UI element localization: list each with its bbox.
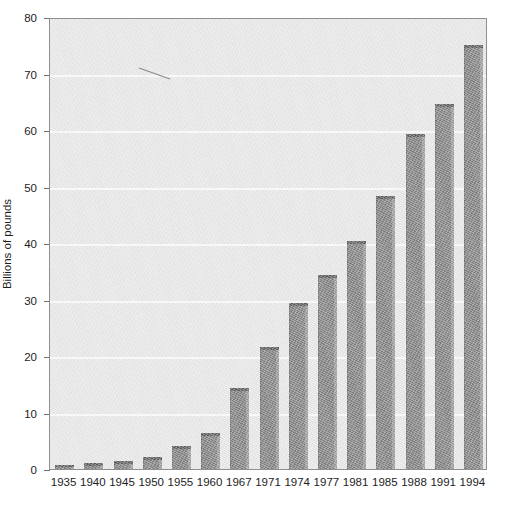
x-axis-tick-label: 1991 [430, 476, 456, 488]
bar-top-edge [435, 104, 454, 107]
bar-left-edge [172, 446, 173, 469]
bar-top-edge [318, 275, 337, 278]
y-axis-tick-label: 20 [0, 351, 37, 363]
bar [435, 104, 454, 469]
y-axis-tick-mark [44, 470, 50, 471]
bar [260, 347, 279, 469]
bar-left-edge [201, 433, 202, 469]
x-axis-tick-label: 1974 [284, 476, 310, 488]
plot-area [49, 18, 487, 470]
bar [406, 134, 425, 469]
y-axis-tick-label: 40 [0, 238, 37, 250]
bar-right-edge [217, 433, 220, 469]
bar [230, 388, 249, 469]
x-axis-tick-label: 1971 [255, 476, 281, 488]
bar [172, 446, 191, 469]
bar-left-edge [435, 104, 436, 469]
bar [55, 465, 74, 469]
x-axis-tick-label: 1955 [168, 476, 194, 488]
bar [143, 457, 162, 469]
x-axis-tick-label: 1967 [226, 476, 252, 488]
x-axis-tick-label: 1988 [401, 476, 427, 488]
bar-top-edge [260, 347, 279, 350]
bar-left-edge [260, 347, 261, 469]
bar-right-edge [480, 45, 483, 469]
bar-right-edge [363, 241, 366, 469]
bar-left-edge [289, 303, 290, 469]
bar [464, 45, 483, 469]
bar-top-edge [230, 388, 249, 391]
bar-left-edge [347, 241, 348, 469]
gridline [50, 75, 486, 77]
y-axis-tick-label: 0 [0, 464, 37, 476]
bar-left-edge [406, 134, 407, 469]
bar [114, 461, 133, 469]
x-axis-tick-label: 1950 [138, 476, 164, 488]
x-axis-tick-label: 1960 [197, 476, 223, 488]
bar-right-edge [422, 134, 425, 469]
bar-top-edge [143, 457, 162, 460]
bar-top-edge [347, 241, 366, 244]
bar-top-edge [376, 196, 395, 199]
y-axis-tick-label: 70 [0, 69, 37, 81]
bar-left-edge [464, 45, 465, 469]
x-axis-tick-label: 1940 [80, 476, 106, 488]
bar-top-edge [289, 303, 308, 306]
chart-page: Billions of pounds 01020304050607080 193… [0, 0, 511, 527]
x-axis-tick-label: 1994 [460, 476, 486, 488]
bar-right-edge [246, 388, 249, 469]
bar-top-edge [55, 465, 74, 467]
bar-top-edge [201, 433, 220, 436]
y-axis-tick-label: 30 [0, 295, 37, 307]
bar [376, 196, 395, 469]
bar-right-edge [305, 303, 308, 469]
gridline [50, 131, 486, 133]
bar-left-edge [318, 275, 319, 469]
bar-top-edge [464, 45, 483, 48]
bar-left-edge [230, 388, 231, 469]
bar [347, 241, 366, 469]
bar-right-edge [276, 347, 279, 469]
bar [201, 433, 220, 469]
bar-left-edge [376, 196, 377, 469]
x-axis-tick-label: 1977 [314, 476, 340, 488]
bar-top-edge [114, 461, 133, 464]
y-axis-tick-label: 80 [0, 12, 37, 24]
y-axis-tick-label: 60 [0, 125, 37, 137]
x-axis-tick-label: 1935 [51, 476, 77, 488]
bar [289, 303, 308, 469]
bar-right-edge [392, 196, 395, 469]
bar-right-edge [451, 104, 454, 469]
x-axis-tick-label: 1985 [372, 476, 398, 488]
bar-right-edge [334, 275, 337, 469]
y-axis-tick-label: 50 [0, 182, 37, 194]
bar-top-edge [172, 446, 191, 449]
bar-top-edge [84, 463, 103, 466]
bar-top-edge [406, 134, 425, 137]
bar [318, 275, 337, 469]
x-axis-tick-label: 1945 [109, 476, 135, 488]
x-axis-tick-label: 1981 [343, 476, 369, 488]
y-axis-tick-label: 10 [0, 408, 37, 420]
bar-right-edge [188, 446, 191, 469]
bar [84, 463, 103, 469]
